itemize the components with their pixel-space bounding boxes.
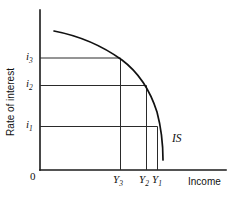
xtick-label-y1: Y1 xyxy=(152,174,162,188)
y-axis-title: Rate of interest xyxy=(4,56,18,148)
is-curve-figure: Rate of interest Income 0 i3 i2 i1 Y3 Y2… xyxy=(0,0,239,198)
plot-area xyxy=(0,0,239,198)
xtick-y2-sub: 2 xyxy=(145,179,149,188)
xtick-label-y3: Y3 xyxy=(113,174,123,188)
ytick-label-i1: i1 xyxy=(26,119,33,133)
y-axis-title-text: Rate of interest xyxy=(6,68,16,136)
xtick-y1-sub: 1 xyxy=(158,179,162,188)
origin-label: 0 xyxy=(30,171,36,182)
x-axis-title: Income xyxy=(188,177,221,187)
ytick-label-i3: i3 xyxy=(26,51,33,65)
ytick-i1-sub: 1 xyxy=(29,124,33,133)
ytick-i3-sub: 3 xyxy=(29,56,33,65)
is-curve-label: IS xyxy=(172,133,182,145)
ytick-i2-sub: 2 xyxy=(29,83,33,92)
xtick-label-y2: Y2 xyxy=(139,174,149,188)
xtick-y3-sub: 3 xyxy=(119,179,123,188)
ytick-label-i2: i2 xyxy=(26,78,33,92)
